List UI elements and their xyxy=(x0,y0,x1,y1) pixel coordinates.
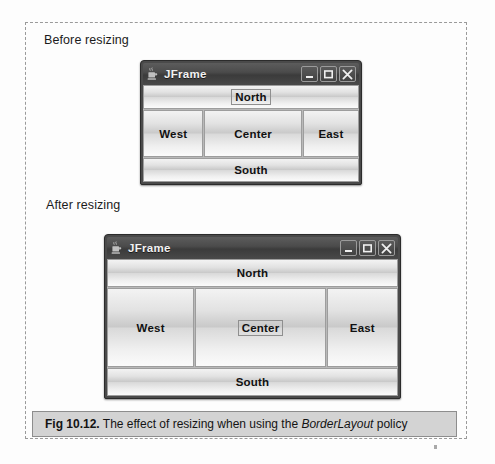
section-label-before-resizing: Before resizing xyxy=(44,33,129,47)
region-button-east-after[interactable]: East xyxy=(327,288,398,367)
java-cup-icon xyxy=(147,67,158,81)
region-button-north-after[interactable]: North xyxy=(107,259,398,287)
figure-caption-emphasis: BorderLayout xyxy=(301,417,373,431)
minimize-button-before[interactable] xyxy=(301,66,318,82)
region-label-center-after: Center xyxy=(238,320,284,336)
figure-caption-number: Fig 10.12. xyxy=(45,417,100,431)
region-button-center-after[interactable]: Center xyxy=(195,288,325,367)
titlebar-before[interactable]: JFrame xyxy=(143,63,359,85)
region-button-center-before[interactable]: Center xyxy=(204,110,301,157)
middle-row-before: West Center East xyxy=(143,110,359,157)
titlebar-after[interactable]: JFrame xyxy=(107,237,398,259)
scan-artifact-mark xyxy=(434,445,437,449)
figure-caption-bar: Fig 10.12. The effect of resizing when u… xyxy=(32,411,457,437)
region-button-south-before[interactable]: South xyxy=(143,158,359,182)
minimize-icon xyxy=(305,70,314,79)
content-pane-before: North West Center East South xyxy=(143,85,359,182)
close-icon xyxy=(381,243,392,254)
region-label-east-after: East xyxy=(347,321,378,335)
region-label-south-before: South xyxy=(231,163,271,177)
titlebar-left-group: JFrame xyxy=(147,67,301,81)
region-button-east-before[interactable]: East xyxy=(303,110,359,157)
region-label-north-before: North xyxy=(231,89,271,105)
region-button-west-after[interactable]: West xyxy=(107,288,194,367)
region-button-west-before[interactable]: West xyxy=(143,110,203,157)
figure-caption-part-1: The effect of resizing when using the xyxy=(100,417,302,431)
close-button-before[interactable] xyxy=(339,66,356,82)
maximize-icon xyxy=(324,70,333,79)
content-pane-after: North West Center East South xyxy=(107,259,398,396)
maximize-icon xyxy=(363,244,372,253)
java-cup-icon xyxy=(111,241,122,255)
region-label-north-after: North xyxy=(234,266,272,280)
minimize-button-after[interactable] xyxy=(340,240,357,256)
region-label-east-before: East xyxy=(315,127,346,141)
region-button-north-before[interactable]: North xyxy=(143,85,359,109)
middle-row-after: West Center East xyxy=(107,288,398,367)
section-label-after-resizing: After resizing xyxy=(46,198,120,212)
figure-caption-text: Fig 10.12. The effect of resizing when u… xyxy=(45,417,407,431)
minimize-icon xyxy=(344,244,353,253)
close-button-after[interactable] xyxy=(378,240,395,256)
region-label-center-before: Center xyxy=(231,127,275,141)
window-title-before: JFrame xyxy=(164,68,207,80)
titlebar-left-group-after: JFrame xyxy=(111,241,340,255)
region-label-west-after: West xyxy=(134,321,168,335)
close-icon xyxy=(342,69,353,80)
figure-caption-part-2: policy xyxy=(373,417,407,431)
maximize-button-before[interactable] xyxy=(320,66,337,82)
jframe-window-before[interactable]: JFrame North xyxy=(140,60,362,185)
jframe-window-after[interactable]: JFrame North xyxy=(104,234,401,399)
window-title-after: JFrame xyxy=(128,242,171,254)
region-button-south-after[interactable]: South xyxy=(107,368,398,396)
region-label-west-before: West xyxy=(156,127,190,141)
maximize-button-after[interactable] xyxy=(359,240,376,256)
region-label-south-after: South xyxy=(233,375,273,389)
window-controls-before xyxy=(301,66,356,82)
window-controls-after xyxy=(340,240,395,256)
